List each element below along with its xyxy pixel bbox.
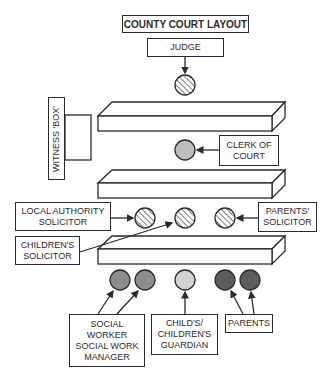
bench-2 (98, 170, 285, 198)
social-worker-label: SOCIALWORKERSOCIAL WORKMANAGER (69, 314, 145, 367)
childrens-solicitor-seat-icon (175, 208, 195, 228)
guardian-seat-icon (175, 270, 195, 290)
diagram-title: COUNTY COURT LAYOUT (122, 15, 249, 33)
parents-label: PARENTS (225, 314, 273, 333)
clerk-label: CLERK OFCOURT (219, 135, 279, 166)
local-authority-solicitor-seat-icon (135, 208, 155, 228)
witness-box (65, 115, 91, 160)
childrens-solicitor-label: CHILDREN'SSOLICITOR (15, 236, 80, 265)
judge-label: JUDGE (147, 38, 224, 57)
parents-solicitor-seat-icon (215, 208, 235, 228)
parents-solicitor-label: PARENTS'SOLICITOR (258, 202, 317, 232)
social-worker-seat-icon (110, 270, 130, 290)
bench-1 (98, 102, 285, 131)
bench-3 (98, 236, 285, 264)
guardian-label: CHILD'S/CHILDREN'SGUARDIAN (151, 314, 218, 355)
parent-seat-icon-1 (215, 270, 235, 290)
social-work-manager-seat-icon (135, 270, 155, 290)
witness-box-label: WITNESS 'BOX' (48, 97, 65, 180)
clerk-seat-icon (175, 140, 195, 160)
judge-seat-icon (175, 75, 195, 95)
parent-seat-icon-2 (240, 270, 260, 290)
local-authority-solicitor-label: LOCAL AUTHORITYSOLICITOR (15, 202, 111, 231)
